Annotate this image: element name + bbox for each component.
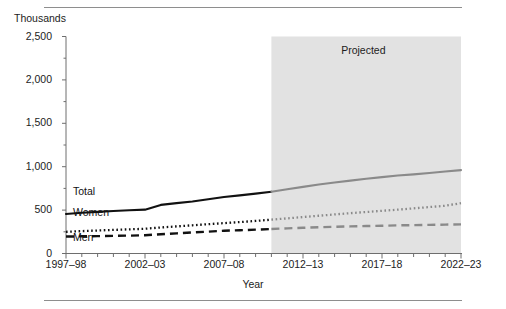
x-tick-label: 2022–23 bbox=[424, 259, 498, 270]
y-tick-label: 2,000 bbox=[8, 74, 52, 85]
series-label-men: Men bbox=[73, 231, 93, 243]
series-label-women: Women bbox=[73, 206, 109, 218]
x-tick-label: 2007–08 bbox=[187, 259, 261, 270]
chart-figure: Thousands 05001,0001,5002,0002,5001997–9… bbox=[0, 0, 506, 309]
y-tick-label: 1,000 bbox=[8, 161, 52, 172]
series-label-total: Total bbox=[73, 185, 95, 197]
x-tick-label: 2017–18 bbox=[345, 259, 419, 270]
x-tick-label: 2012–13 bbox=[266, 259, 340, 270]
x-tick-label: 1997–98 bbox=[29, 259, 103, 270]
x-axis-title: Year bbox=[0, 278, 506, 290]
y-tick-label: 500 bbox=[8, 204, 52, 215]
y-tick-label: 0 bbox=[8, 248, 52, 259]
x-tick-label: 2002–03 bbox=[108, 259, 182, 270]
projected-band bbox=[271, 37, 461, 254]
y-tick-label: 1,500 bbox=[8, 117, 52, 128]
projected-annotation: Projected bbox=[341, 44, 385, 56]
y-tick-label: 2,500 bbox=[8, 31, 52, 42]
